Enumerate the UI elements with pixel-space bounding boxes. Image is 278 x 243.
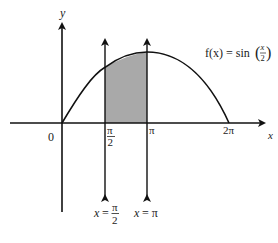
origin-label: 0: [48, 130, 54, 144]
x-axis-label: x: [267, 129, 273, 141]
svg-text:f(x) = sin: f(x) = sin: [205, 46, 250, 60]
svg-text:= π: = π: [142, 206, 158, 220]
function-label: f(x) = sin ( x 2 ): [205, 42, 271, 63]
svg-text:2: 2: [261, 53, 265, 63]
svg-text:2: 2: [112, 214, 118, 226]
svg-text:): ): [266, 44, 271, 62]
label-x-eq-pi-over-2: x = π 2: [93, 201, 119, 226]
function-graph: y x 0 π 2 π 2π f(x) = sin ( x 2 ) x = π …: [0, 0, 278, 243]
y-axis-label: y: [59, 6, 66, 20]
tick-label-pi: π: [149, 124, 155, 136]
svg-text:x: x: [133, 206, 140, 220]
svg-text:π: π: [112, 201, 118, 213]
tick-label-2pi: 2π: [223, 124, 235, 136]
svg-text:x: x: [93, 206, 100, 220]
tick-label-pi-over-2: π 2: [107, 124, 115, 148]
svg-text:=: =: [102, 206, 109, 220]
svg-text:2: 2: [108, 136, 114, 148]
svg-text:π: π: [107, 124, 113, 136]
svg-text:x: x: [260, 42, 265, 52]
label-x-eq-pi: x = π: [133, 206, 158, 220]
